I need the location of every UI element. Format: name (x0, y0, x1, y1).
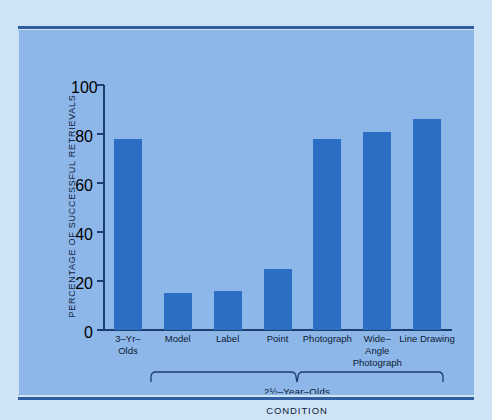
bar-series (103, 85, 452, 330)
bar (214, 291, 242, 330)
y-tick-label-40: 40 (71, 226, 93, 236)
x-category-label-line: Angle (346, 345, 408, 357)
bar (114, 139, 142, 330)
x-axis-title: CONDITION (150, 405, 444, 416)
bar (413, 119, 441, 330)
y-axis-title: PERCENTAGE OF SUCCESSFUL RETRIEVALS (67, 81, 77, 331)
x-category-label-line: Photograph (346, 357, 408, 369)
chart-panel: PERCENTAGE OF SUCCESSFUL RETRIEVALS 0204… (19, 31, 474, 394)
top-rule (18, 26, 474, 29)
x-category-label-line: Line Drawing (396, 333, 458, 345)
x-category-label-line: Olds (97, 345, 159, 357)
bar (363, 132, 391, 330)
bottom-rule-highlight (18, 394, 474, 395)
group-bracket-label: 2½–Year–Olds (150, 386, 444, 397)
y-tick-label-80: 80 (71, 128, 93, 138)
bar (164, 293, 192, 330)
figure-root: PERCENTAGE OF SUCCESSFUL RETRIEVALS 0204… (0, 0, 492, 420)
y-tick-label-20: 20 (71, 275, 93, 285)
y-tick-label-100: 100 (71, 79, 93, 89)
bar (264, 269, 292, 330)
bottom-rule (18, 397, 474, 400)
group-bracket-icon (150, 371, 444, 383)
y-tick-label-0: 0 (71, 324, 93, 334)
x-category-label: Line Drawing (396, 333, 458, 345)
bar (313, 139, 341, 330)
y-tick-label-60: 60 (71, 177, 93, 187)
